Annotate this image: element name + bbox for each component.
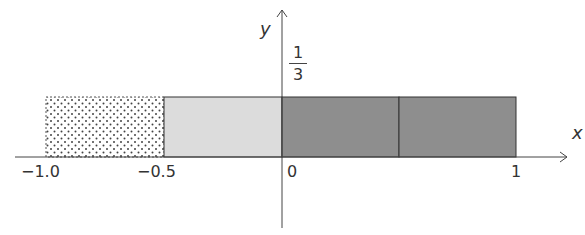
x-tick-0: 0 [287, 164, 297, 180]
diagram-canvas [0, 0, 585, 235]
x-tick-1: 1 [511, 164, 521, 180]
fraction-numerator: 1 [293, 45, 303, 63]
y-tick-one-third: 1 3 [289, 45, 307, 83]
fraction-denominator: 3 [293, 64, 303, 83]
x-axis-label: x [572, 124, 583, 142]
x-tick-minus-0-5: −0.5 [137, 164, 176, 180]
y-axis-label: y [260, 20, 271, 38]
region-light-gray [164, 97, 282, 157]
region-dark-gray-right [399, 97, 516, 157]
region-dark-gray-left [282, 97, 399, 157]
x-tick-minus-1: −1.0 [21, 164, 60, 180]
region-dotted [46, 97, 164, 157]
